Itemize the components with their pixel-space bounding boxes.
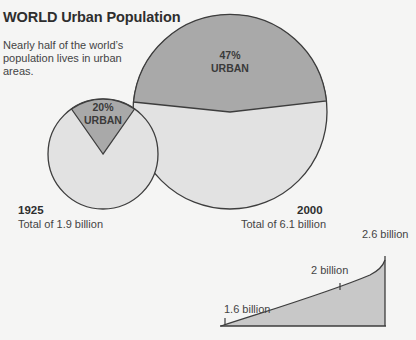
area-chart: 1.6 billion 2 billion 2.6 billion <box>220 228 408 326</box>
label-2-6-billion: 2.6 billion <box>362 228 408 240</box>
pie-2000 <box>133 14 327 209</box>
pie-2000-total: Total of 6.1 billion <box>241 218 326 230</box>
pie-1925-urban-label: URBAN <box>84 114 122 126</box>
pie-2000-urban-label: URBAN <box>211 62 249 74</box>
label-2-billion: 2 billion <box>311 264 348 276</box>
pie-1925-total: Total of 1.9 billion <box>18 218 103 230</box>
pie-2000-year: 2000 <box>297 204 323 216</box>
pie-1925-pct-label: 20% <box>92 101 114 113</box>
pie-1925-year: 1925 <box>18 204 44 216</box>
area-fill <box>221 260 385 326</box>
pie-2000-pct-label: 47% <box>219 49 241 61</box>
label-1-6-billion: 1.6 billion <box>224 303 270 315</box>
figure-canvas: 47% URBAN 20% URBAN 1.6 billion 2 billio… <box>0 0 416 340</box>
